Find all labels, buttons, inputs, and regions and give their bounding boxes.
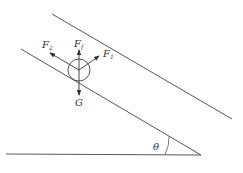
vertical-force-label: Ff [73,38,85,51]
lower-incline-line [21,49,201,155]
incline-force-diagram: θ G Ff F1 F2 [0,0,243,173]
angle-arc [165,137,169,155]
normal-force-label: F1 [102,48,114,60]
normal-force-arrow [79,56,99,70]
up-slope-force-label: F2 [41,39,53,51]
angle-label: θ [153,141,159,152]
up-slope-force-arrow [50,53,79,70]
gravity-label: G [75,97,83,108]
ground-line [6,154,201,155]
